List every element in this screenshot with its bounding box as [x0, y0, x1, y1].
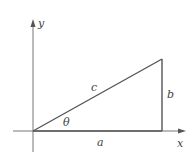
y-axis-label: y — [37, 17, 45, 30]
angle-label: θ — [63, 116, 70, 129]
x-axis-label: x — [177, 137, 184, 150]
triangle-diagram: y x c b a θ — [0, 0, 195, 154]
adjacent-label: a — [97, 136, 104, 149]
hypotenuse-c — [33, 59, 162, 131]
x-axis-arrow-icon — [178, 129, 186, 134]
hypotenuse-label: c — [91, 81, 97, 94]
opposite-label: b — [167, 88, 174, 101]
y-axis-arrow-icon — [31, 19, 36, 27]
